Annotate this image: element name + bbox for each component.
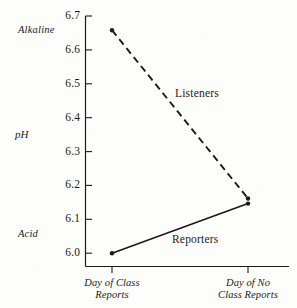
- x-tick-label-left-line2: Reports: [62, 289, 162, 301]
- datapoint-listeners-day-of-class-reports: [110, 28, 114, 32]
- datapoint-reporters-day-of-class-reports: [110, 251, 114, 255]
- datapoint-reporters-day-of-no-class-reports: [246, 201, 250, 205]
- series-label-listeners: Listeners: [175, 87, 219, 100]
- x-tick-label-left: Day of Class Reports: [62, 277, 162, 301]
- x-tick-label-right-line1: Day of No: [198, 277, 297, 289]
- acid-annotation: Acid: [18, 228, 38, 240]
- x-tick-label-right-line2: Class Reports: [198, 289, 297, 301]
- datapoint-listeners-day-of-no-class-reports: [246, 196, 250, 200]
- y-axis-title: pH: [15, 128, 28, 140]
- series-label-reporters: Reporters: [172, 233, 219, 246]
- alkaline-annotation: Alkaline: [18, 24, 55, 36]
- series-line-listeners: [112, 30, 248, 198]
- chart-plot-area: [0, 0, 297, 308]
- x-tick-label-left-line1: Day of Class: [62, 277, 162, 289]
- x-tick-label-right: Day of No Class Reports: [198, 277, 297, 301]
- y-tick-label-6-6: 6.6: [52, 43, 80, 56]
- y-tick-label-6-2: 6.2: [52, 178, 80, 191]
- y-tick-label-6-5: 6.5: [52, 77, 80, 90]
- y-tick-label-6-1: 6.1: [52, 212, 80, 225]
- x-tick-marks: [112, 267, 248, 274]
- y-tick-marks: [86, 16, 93, 253]
- y-tick-label-6-0: 6.0: [52, 246, 80, 259]
- y-tick-label-6-3: 6.3: [52, 145, 80, 158]
- y-tick-label-6-7: 6.7: [52, 9, 80, 22]
- ph-line-chart-figure: 6.7 6.6 6.5 6.4 6.3 6.2 6.1 6.0 Alkaline…: [0, 0, 297, 308]
- y-tick-label-6-4: 6.4: [52, 111, 80, 124]
